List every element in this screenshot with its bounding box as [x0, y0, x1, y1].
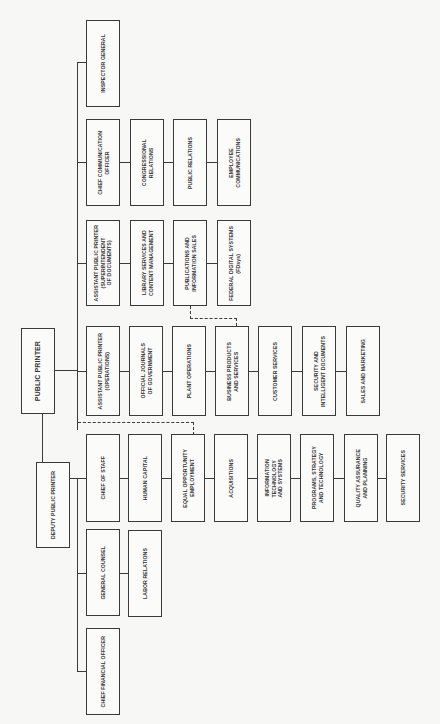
- box-sales-marketing: SALES AND MARKETING: [346, 326, 380, 416]
- label: PUBLIC PRINTER: [34, 341, 43, 401]
- box-library-services: LIBRARY SERVICES AND CONTENT MANAGEMENT: [130, 220, 164, 306]
- spine-line: [77, 62, 78, 370]
- spine-upper-ext: [77, 370, 78, 430]
- dotted-link-sd-ops-drop: [236, 318, 237, 326]
- box-information-technology: INFORMATION TECHNOLOGY AND SYSTEMS: [257, 434, 291, 522]
- box-publications-information-sales: PUBLICATIONS AND INFORMATION SALES: [173, 220, 207, 306]
- box-federal-digital-systems: FEDERAL DIGITAL SYSTEMS (FDsys): [217, 220, 251, 306]
- box-quality-assurance: QUALITY ASSURANCE AND PLANNING: [344, 434, 378, 522]
- label: PUBLIC RELATIONS: [187, 137, 194, 189]
- label: SECURITY AND INTELLIGENT DOCUMENTS: [313, 336, 326, 407]
- box-chief-financial-officer: CHIEF FINANCIAL OFFICER: [86, 628, 120, 715]
- label: CUSTOMER SERVICES: [272, 342, 279, 401]
- box-equal-opportunity-employment: EQUAL OPPORTUNITY EMPLOYMENT: [171, 434, 205, 522]
- label: INSPECTOR GENERAL: [100, 34, 107, 93]
- label: GENERAL COUNSEL: [100, 546, 107, 600]
- box-app-superintendent-documents: ASSISTANT PUBLIC PRINTER (SUPERINTENDENT…: [86, 220, 120, 306]
- label: BUSINESS PRODUCTS AND SERVICES: [226, 342, 239, 401]
- pp-to-dpp-line: [42, 414, 43, 462]
- label: HUMAN CAPITAL: [142, 456, 149, 500]
- label: LIBRARY SERVICES AND CONTENT MANAGEMENT: [141, 230, 154, 296]
- box-congressional-relations: CONGRESSIONAL RELATIONS: [130, 119, 164, 206]
- label: PROGRAMS, STRATEGY AND TECHNOLOGY: [311, 446, 324, 509]
- box-acquisitions: ACQUISITIONS: [214, 434, 248, 522]
- label: ACQUISITIONS: [228, 459, 235, 498]
- label: CHIEF FINANCIAL OFFICER: [100, 636, 107, 707]
- label: CONGRESSIONAL RELATIONS: [141, 139, 154, 186]
- box-labor-relations: LABOR RELATIONS: [128, 530, 162, 617]
- dpp-spine-line: [77, 478, 78, 671]
- box-chief-of-staff: CHIEF OF STAFF: [86, 434, 120, 522]
- box-security-intelligent-documents: SECURITY AND INTELLIGENT DOCUMENTS: [302, 326, 336, 416]
- box-inspector-general: INSPECTOR GENERAL: [86, 20, 120, 107]
- label: CHIEF COMMUNICATION OFFICER: [97, 131, 110, 195]
- box-official-journals: OFFICIAL JOURNALS OF GOVERNMENT: [129, 326, 163, 416]
- box-public-relations: PUBLIC RELATIONS: [173, 119, 207, 206]
- box-public-printer: PUBLIC PRINTER: [21, 328, 55, 414]
- label: INFORMATION TECHNOLOGY AND SYSTEMS: [264, 459, 284, 498]
- label: DEPUTY PUBLIC PRINTER: [50, 471, 57, 539]
- label: ASSISTANT PUBLIC PRINTER (SUPERINTENDENT…: [93, 225, 113, 301]
- box-plant-operations: PLANT OPERATIONS: [172, 326, 206, 416]
- box-general-counsel: GENERAL COUNSEL: [86, 529, 120, 616]
- label: ASSISTANT PUBLIC PRINTER (OPERATIONS): [97, 333, 110, 409]
- label: QUALITY ASSURANCE AND PLANNING: [355, 449, 368, 507]
- box-security-services: SECURITY SERVICES: [386, 434, 420, 522]
- box-customer-services: CUSTOMER SERVICES: [258, 326, 292, 416]
- label: PUBLICATIONS AND INFORMATION SALES: [184, 235, 197, 292]
- pp-to-spine-line: [55, 370, 78, 371]
- box-human-capital: HUMAN CAPITAL: [128, 434, 162, 522]
- box-deputy-public-printer: DEPUTY PUBLIC PRINTER: [36, 462, 70, 548]
- label: EQUAL OPPORTUNITY EMPLOYMENT: [182, 449, 195, 508]
- box-business-products: BUSINESS PRODUCTS AND SERVICES: [215, 326, 249, 416]
- cfo-connector: [77, 671, 86, 672]
- label: PLANT OPERATIONS: [186, 344, 193, 398]
- label: SALES AND MARKETING: [360, 339, 367, 404]
- box-employee-communications: EMPLOYEE COMMUNICATIONS: [217, 119, 251, 206]
- label: CHIEF OF STAFF: [100, 456, 107, 499]
- label: SECURITY SERVICES: [400, 450, 407, 505]
- label: OFFICIAL JOURNALS OF GOVERNMENT: [140, 343, 153, 399]
- box-app-operations: ASSISTANT PUBLIC PRINTER (OPERATIONS): [86, 326, 120, 416]
- label: EMPLOYEE COMMUNICATIONS: [228, 138, 241, 188]
- box-programs-strategy-technology: PROGRAMS, STRATEGY AND TECHNOLOGY: [300, 434, 334, 522]
- label: FEDERAL DIGITAL SYSTEMS (FDsys): [228, 226, 241, 301]
- dotted-link-sd-ops: [190, 306, 237, 319]
- label: LABOR RELATIONS: [142, 548, 149, 599]
- box-chief-communication-officer: CHIEF COMMUNICATION OFFICER: [86, 119, 120, 206]
- ig-connector: [77, 62, 86, 63]
